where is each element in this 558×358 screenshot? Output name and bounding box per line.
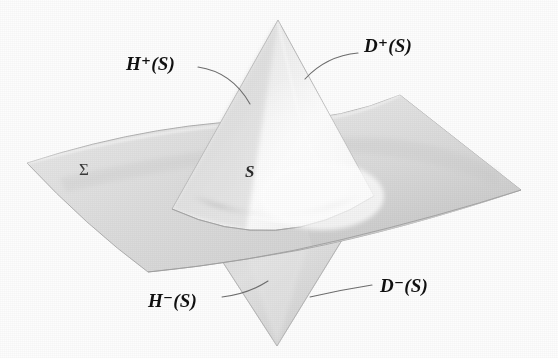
- label-h-minus: H⁻(S): [148, 291, 197, 310]
- label-s: S: [245, 163, 255, 180]
- label-d-plus: D⁺(S): [364, 36, 412, 55]
- d-minus-leader: [310, 285, 372, 297]
- d-plus-leader: [305, 53, 358, 79]
- figure-container: H⁺(S) D⁺(S) H⁻(S) D⁻(S) S Σ: [0, 0, 558, 358]
- label-h-plus: H⁺(S): [126, 54, 175, 73]
- geometry-canvas: [0, 0, 558, 358]
- label-d-minus: D⁻(S): [380, 276, 428, 295]
- label-sigma: Σ: [79, 161, 89, 178]
